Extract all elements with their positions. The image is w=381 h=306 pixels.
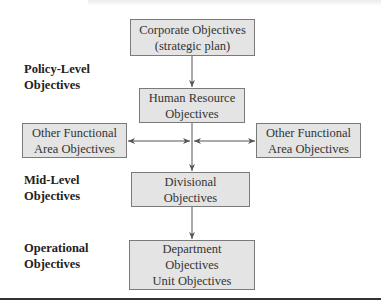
node-line: Area Objectives [34,141,115,157]
node-line: Department [162,241,221,257]
node-line: (strategic plan) [155,38,230,54]
bottom-rule [0,298,381,300]
node-line: Corporate Objectives [139,22,246,38]
node-line: Other Functional [32,125,117,141]
level-line: Objectives [24,77,90,93]
operational-level-label: Operational Objectives [24,240,89,272]
node-line: Human Resource [149,90,235,106]
node-line: Other Functional [266,125,351,141]
level-line: Objectives [24,188,80,204]
other-functional-left-box: Other Functional Area Objectives [22,123,127,158]
other-functional-right-box: Other Functional Area Objectives [256,123,361,158]
divisional-objectives-box: Divisional Objectives [131,172,250,207]
policy-level-label: Policy-Level Objectives [24,61,90,93]
node-line: Objectives [164,190,217,206]
node-line: Objectives [165,257,218,273]
level-line: Mid-Level [24,172,80,188]
node-line: Unit Objectives [153,273,232,289]
mid-level-label: Mid-Level Objectives [24,172,80,204]
node-line: Area Objectives [268,141,349,157]
hr-objectives-box: Human Resource Objectives [139,88,245,123]
level-line: Operational [24,240,89,256]
corporate-objectives-box: Corporate Objectives (strategic plan) [130,19,255,56]
level-line: Objectives [24,256,89,272]
department-objectives-box: Department Objectives Unit Objectives [129,240,255,290]
node-line: Divisional [164,174,216,190]
node-line: Objectives [165,106,218,122]
level-line: Policy-Level [24,61,90,77]
